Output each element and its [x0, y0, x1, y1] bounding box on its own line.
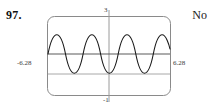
x-axis-min-label: -6.28	[17, 60, 32, 67]
graph-canvas	[47, 16, 171, 96]
y-axis-max-label: 3	[104, 7, 108, 14]
y-axis-min-label: -1	[103, 97, 109, 104]
exercise-item: 97. No 3 -1 -6.28 6.28	[0, 0, 215, 110]
graph-figure: 3 -1 -6.28 6.28	[47, 16, 171, 96]
problem-number: 97.	[6, 9, 22, 21]
answer-text: No	[192, 9, 207, 21]
x-axis-max-label: 6.28	[173, 60, 185, 67]
